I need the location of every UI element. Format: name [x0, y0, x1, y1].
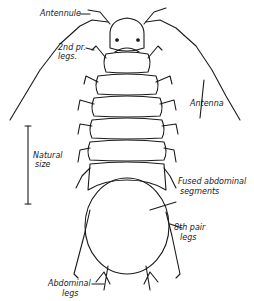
label-2nd-pair-legs: 2nd pr. — [58, 44, 86, 52]
segment-5 — [88, 140, 166, 161]
leg-l1 — [92, 46, 106, 58]
segment-1 — [104, 52, 150, 73]
leg-r8 — [166, 212, 180, 278]
head — [110, 18, 144, 51]
label-natural-size-2: size — [35, 161, 51, 169]
label-fused-segments: Fused abdominal — [178, 178, 246, 186]
eye-left — [116, 39, 119, 42]
abd-leg-left — [96, 266, 110, 290]
label-2nd-pair-legs-2: legs. — [58, 53, 77, 61]
antenna-left — [10, 20, 108, 120]
segment-3 — [92, 96, 162, 117]
leg-r2 — [156, 76, 172, 84]
abd-leg-right — [144, 266, 158, 290]
segment-6 — [88, 162, 166, 190]
label-fused-segments-2: segments — [180, 188, 219, 196]
label-abdominal-legs: Abdominal — [48, 280, 91, 288]
label-8th-pair-legs: 8th pair — [174, 224, 205, 232]
eye-right — [137, 39, 140, 42]
label-antennule: Antennule — [40, 10, 81, 18]
leg-r1 — [148, 46, 162, 58]
label-abdominal-legs-2: legs — [62, 290, 78, 298]
segment-2 — [96, 74, 158, 95]
segment-4 — [90, 118, 164, 139]
label-antenna: Antenna — [190, 100, 224, 108]
abdomen — [85, 178, 169, 274]
label-natural-size: Natural — [33, 152, 63, 160]
label-8th-pair-legs-2: legs — [180, 234, 196, 242]
